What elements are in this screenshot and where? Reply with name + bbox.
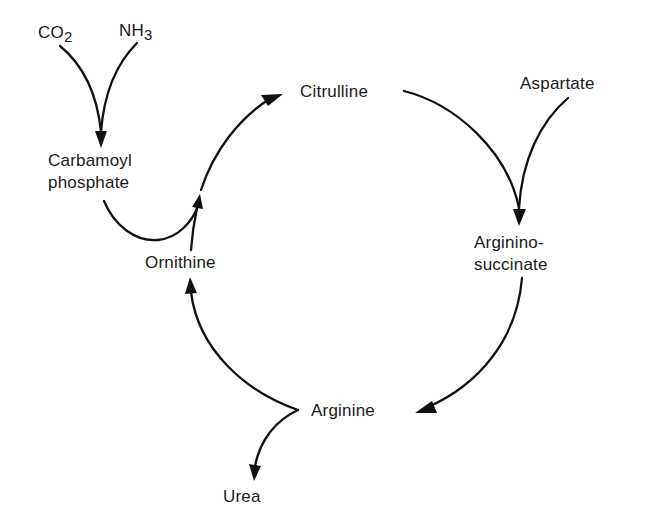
- co2-subscript: 2: [64, 28, 73, 45]
- citrulline-label: Citrulline: [300, 82, 368, 101]
- node-carbamoyl-phosphate: Carbamoyl phosphate: [48, 150, 132, 194]
- argininosuccinate-line1: Arginino-: [474, 232, 548, 254]
- aspartate-label: Aspartate: [520, 74, 595, 93]
- arrow-arginine-to-urea: [255, 410, 298, 466]
- arginine-label: Arginine: [311, 401, 375, 420]
- ornithine-label: Ornithine: [145, 253, 216, 272]
- nh3-subscript: 3: [144, 26, 153, 43]
- co2-main: CO: [38, 23, 64, 42]
- arrowhead-ornithine: [185, 277, 197, 294]
- node-aspartate: Aspartate: [520, 73, 595, 95]
- argininosuccinate-line2: succinate: [474, 254, 548, 276]
- arrow-aspartate-to-argininosuccinate: [519, 98, 568, 208]
- node-co2: CO2: [38, 22, 72, 44]
- arrowhead-carbamoyl: [95, 131, 107, 148]
- arrowhead-arginine: [415, 401, 437, 413]
- arrow-citrulline-to-argininosuccinate: [404, 91, 519, 208]
- node-argininosuccinate: Arginino- succinate: [474, 232, 548, 276]
- arrow-arginine-to-ornithine: [191, 292, 298, 410]
- node-nh3: NH3: [119, 20, 153, 42]
- arrowhead-junction: [192, 194, 203, 209]
- arrow-co2-to-carbamoyl: [60, 46, 101, 132]
- arrow-to-citrulline: [201, 100, 268, 190]
- arrow-carbamoyl-to-cycle: [104, 201, 198, 240]
- urea-label: Urea: [223, 487, 261, 506]
- arrowhead-urea: [249, 464, 261, 481]
- node-urea: Urea: [223, 486, 261, 508]
- node-arginine: Arginine: [311, 400, 375, 422]
- arrowhead-citrulline: [261, 94, 283, 106]
- node-ornithine: Ornithine: [145, 252, 216, 274]
- urea-cycle-diagram: CO2 NH3 Carbamoyl phosphate Citrulline A…: [0, 0, 645, 526]
- arrow-argininosuccinate-to-arginine: [428, 278, 522, 407]
- node-citrulline: Citrulline: [300, 81, 368, 103]
- nh3-main: NH: [119, 21, 144, 40]
- arrowhead-argininosuccinate: [513, 209, 526, 226]
- carbamoyl-line2: phosphate: [48, 172, 132, 194]
- carbamoyl-line1: Carbamoyl: [48, 150, 132, 172]
- arrow-nh3-to-carbamoyl: [101, 43, 137, 132]
